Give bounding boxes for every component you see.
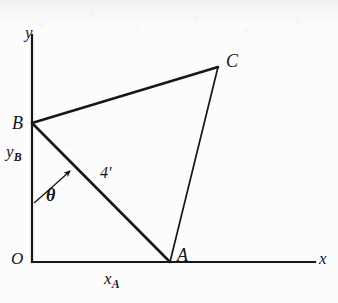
x-axis-label: x	[319, 250, 327, 267]
origin-label: O	[11, 250, 23, 267]
y-axis-label: y	[25, 24, 33, 41]
y-intercept-base: y	[6, 142, 14, 161]
edge-BC	[32, 67, 218, 123]
vertex-label-C: C	[226, 52, 238, 70]
x-intercept-subscript: A	[112, 277, 120, 291]
vertex-label-B: B	[12, 114, 23, 132]
geometry-figure: y x O B A C yB xA θ 4'	[0, 0, 338, 303]
triangle-group	[32, 67, 218, 262]
figure-canvas	[0, 0, 338, 303]
axes-group	[32, 35, 315, 262]
angle-theta-label: θ	[46, 186, 55, 204]
y-intercept-label: yB	[6, 143, 22, 163]
x-intercept-label: xA	[104, 270, 120, 290]
x-intercept-base: x	[104, 269, 112, 288]
vertex-label-A: A	[177, 246, 188, 264]
y-intercept-subscript: B	[14, 150, 22, 164]
segment-length-label: 4'	[100, 165, 111, 181]
edge-CA	[170, 67, 218, 262]
